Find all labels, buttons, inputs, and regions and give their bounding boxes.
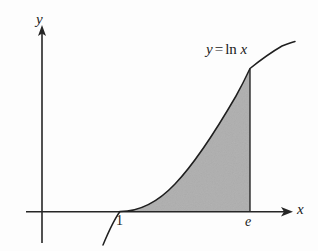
curve-label-function: ln	[225, 41, 237, 57]
curve-label-argument: x	[241, 41, 248, 57]
x-tick-label-one: 1	[116, 214, 123, 228]
graph-plot	[0, 0, 318, 251]
y-axis-label: y	[36, 12, 43, 27]
curve-equation-label: y=ln x	[206, 42, 247, 57]
x-tick-label-e: e	[245, 215, 251, 229]
figure-canvas: y x y=ln x 1 e	[0, 0, 318, 251]
shaded-region	[120, 69, 250, 212]
x-axis-label: x	[297, 202, 304, 217]
curve-label-lhs: y	[206, 41, 213, 57]
log-curve	[103, 42, 295, 246]
curve-label-operator: =	[213, 41, 225, 57]
